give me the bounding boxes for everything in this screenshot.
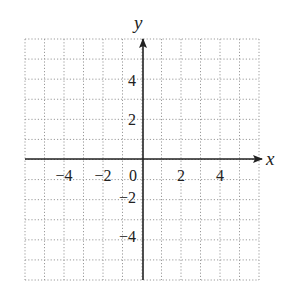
x-tick-label: 4 [216,167,224,184]
x-axis-label: x [265,148,275,169]
x-tick-label: −4 [55,167,72,184]
y-tick-label: −2 [119,189,136,206]
coordinate-plane: x y −4 −2 0 2 4 4 2 −2 −4 [0,0,291,285]
x-tick-label: −2 [94,167,111,184]
y-tick-label: −4 [119,228,136,245]
y-tick-label: 2 [128,111,136,128]
y-tick-label: 4 [128,72,136,89]
x-tick-label: 0 [129,167,137,184]
y-axis-label: y [132,12,143,33]
x-tick-label: 2 [177,167,185,184]
